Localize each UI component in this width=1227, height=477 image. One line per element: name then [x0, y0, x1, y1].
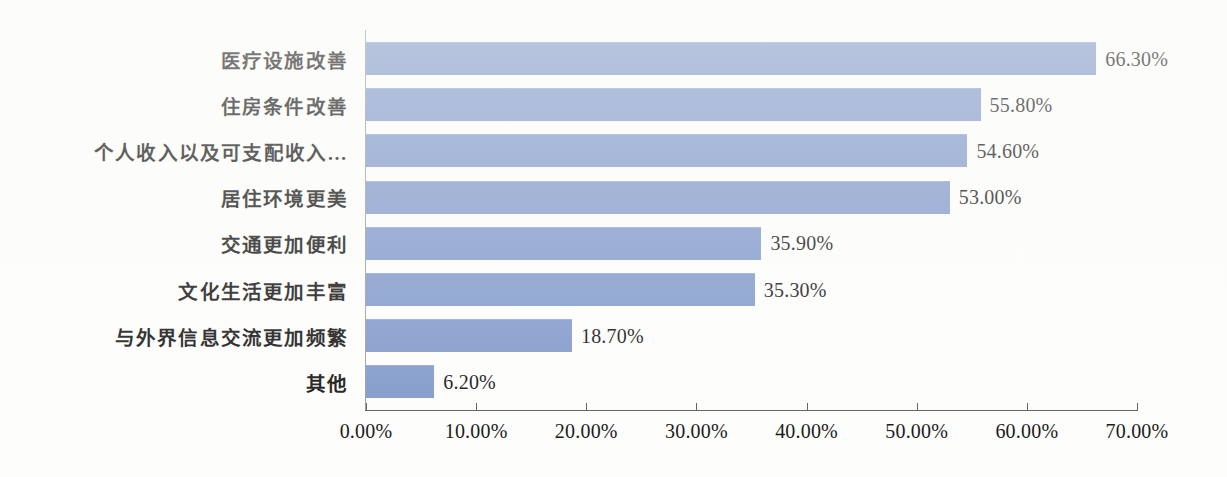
bar-value-label: 35.30%	[764, 278, 827, 301]
bar[interactable]	[366, 134, 967, 167]
x-tick-label: 0.00%	[340, 420, 393, 443]
category-label: 住房条件改善	[0, 90, 348, 119]
x-tick-label: 10.00%	[445, 420, 508, 443]
chart-row: 个人收入以及可支配收入…54.60%	[0, 134, 1227, 167]
category-label: 医疗设施改善	[0, 44, 348, 73]
category-label: 交通更加便利	[0, 229, 348, 258]
chart-row: 文化生活更加丰富35.30%	[0, 273, 1227, 306]
chart-plot-area: 医疗设施改善66.30%住房条件改善55.80%个人收入以及可支配收入…54.6…	[0, 0, 1227, 410]
x-axis-line	[365, 410, 1138, 411]
chart-row: 医疗设施改善66.30%	[0, 42, 1227, 75]
x-tick-mark	[476, 403, 477, 411]
bar[interactable]	[366, 319, 572, 352]
bar[interactable]	[366, 88, 981, 121]
bar-value-label: 66.30%	[1105, 47, 1168, 70]
chart-row: 交通更加便利35.90%	[0, 227, 1227, 260]
bar-value-label: 54.60%	[976, 139, 1039, 162]
x-tick-label: 50.00%	[885, 420, 948, 443]
bar-chart: 医疗设施改善66.30%住房条件改善55.80%个人收入以及可支配收入…54.6…	[0, 0, 1227, 477]
x-tick-mark	[366, 403, 367, 411]
bar-value-label: 55.80%	[990, 93, 1053, 116]
x-tick-label: 20.00%	[555, 420, 618, 443]
category-label: 与外界信息交流更加频繁	[0, 321, 348, 350]
bar[interactable]	[366, 227, 761, 260]
chart-row: 与外界信息交流更加频繁18.70%	[0, 319, 1227, 352]
y-axis-line	[365, 30, 366, 411]
chart-row: 居住环境更美53.00%	[0, 181, 1227, 214]
x-tick-mark	[917, 403, 918, 411]
x-tick-label: 30.00%	[665, 420, 728, 443]
bar-value-label: 53.00%	[959, 186, 1022, 209]
bar-value-label: 18.70%	[581, 324, 644, 347]
bar[interactable]	[366, 273, 755, 306]
category-label: 居住环境更美	[0, 183, 348, 212]
bar[interactable]	[366, 365, 434, 398]
chart-row: 住房条件改善55.80%	[0, 88, 1227, 121]
category-label: 其他	[0, 367, 348, 396]
x-tick-label: 40.00%	[775, 420, 838, 443]
x-tick-mark	[696, 403, 697, 411]
x-tick-mark	[807, 403, 808, 411]
category-label: 个人收入以及可支配收入…	[0, 136, 348, 165]
bar[interactable]	[366, 42, 1096, 75]
x-tick-label: 70.00%	[1106, 420, 1169, 443]
x-tick-label: 60.00%	[995, 420, 1058, 443]
x-tick-mark	[1137, 403, 1138, 411]
bar-value-label: 6.20%	[443, 370, 496, 393]
chart-row: 其他6.20%	[0, 365, 1227, 398]
x-tick-mark	[1027, 403, 1028, 411]
bar-value-label: 35.90%	[770, 232, 833, 255]
x-tick-mark	[586, 403, 587, 411]
category-label: 文化生活更加丰富	[0, 275, 348, 304]
bar[interactable]	[366, 181, 950, 214]
